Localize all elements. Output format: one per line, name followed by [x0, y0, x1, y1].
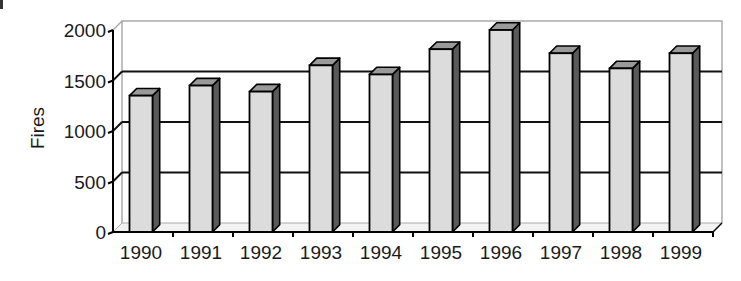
bar-1991: [190, 78, 220, 232]
x-tick-label: 1999: [660, 242, 702, 263]
fires-bar-chart: 0500100015002000 19901991199219931994199…: [0, 0, 741, 281]
bar-1997: [550, 46, 580, 232]
x-tick-label: 1993: [300, 242, 342, 263]
x-tick-label: 1990: [120, 242, 162, 263]
x-tick-label: 1998: [600, 242, 642, 263]
y-axis-title: Fires: [27, 107, 48, 149]
x-tick-label: 1997: [540, 242, 582, 263]
bar-1994: [370, 67, 400, 232]
y-tick-label: 0: [95, 222, 106, 243]
bar-1999: [670, 46, 700, 232]
y-tick-label: 500: [74, 172, 106, 193]
y-tick-label: 1500: [64, 71, 106, 92]
x-tick-label: 1995: [420, 242, 462, 263]
y-tick-label: 1000: [64, 121, 106, 142]
y-axis-ticks: 0500100015002000: [64, 20, 113, 243]
x-axis-ticks: 1990199119921993199419951996199719981999: [120, 232, 713, 263]
bar-1993: [310, 58, 340, 232]
bars: [130, 23, 700, 232]
bar-1990: [130, 88, 160, 232]
bar-1995: [430, 42, 460, 232]
bar-1992: [250, 84, 280, 232]
x-tick-label: 1994: [360, 242, 403, 263]
y-tick-label: 2000: [64, 20, 106, 41]
x-tick-label: 1992: [240, 242, 282, 263]
x-tick-label: 1991: [180, 242, 222, 263]
x-tick-label: 1996: [480, 242, 522, 263]
bar-1996: [490, 23, 520, 232]
bar-1998: [610, 61, 640, 232]
